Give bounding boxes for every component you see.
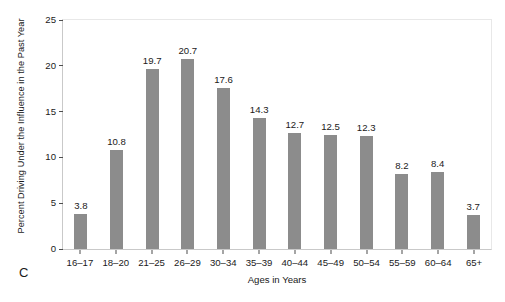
x-axis-tick: 18–20 — [98, 250, 134, 274]
y-tick-label: 10 — [45, 150, 56, 164]
x-axis-title: Ages in Years — [62, 273, 492, 286]
plot-area: 0510152025 3.810.819.720.717.614.312.712… — [62, 19, 492, 250]
bar-value-label: 10.8 — [107, 136, 126, 148]
x-tick-label: 18–20 — [102, 256, 129, 269]
bar-slot: 3.8 — [63, 20, 99, 249]
x-tick-label: 60–64 — [425, 256, 452, 269]
x-axis-tick: 55–59 — [384, 250, 420, 274]
x-axis-tick: 26–29 — [169, 250, 205, 274]
bar-value-label: 8.2 — [395, 160, 408, 172]
x-axis-tick: 60–64 — [420, 250, 456, 274]
x-tick-label: 65+ — [466, 256, 482, 269]
bar-value-label: 12.7 — [286, 119, 305, 131]
x-tick-mark — [474, 250, 475, 254]
bar-slot: 12.5 — [313, 20, 349, 249]
bar-slot: 12.3 — [348, 20, 384, 249]
bar-slot: 12.7 — [277, 20, 313, 249]
y-tick-label: 5 — [51, 196, 56, 210]
x-tick-mark — [330, 250, 331, 254]
bar-chart-figure: Percent Driving Under the Influence in t… — [0, 0, 505, 302]
bar-value-label: 3.7 — [467, 201, 480, 213]
bar-slot: 17.6 — [206, 20, 242, 249]
x-tick-label: 55–59 — [389, 256, 416, 269]
x-tick-label: 35–39 — [246, 256, 273, 269]
x-tick-mark — [366, 250, 367, 254]
bar-value-label: 19.7 — [143, 55, 162, 67]
bar-slot: 8.4 — [420, 20, 456, 249]
bar[interactable]: 12.3 — [360, 136, 373, 249]
x-tick-label: 45–49 — [317, 256, 344, 269]
y-axis-title: Percent Driving Under the Influence in t… — [14, 0, 28, 256]
bar[interactable]: 3.8 — [74, 214, 87, 249]
x-axis-tick: 21–25 — [134, 250, 170, 274]
x-tick-label: 26–29 — [174, 256, 201, 269]
bar[interactable]: 10.8 — [110, 150, 123, 249]
bar-value-label: 8.4 — [431, 158, 444, 170]
x-tick-mark — [223, 250, 224, 254]
x-axis-ticks: 16–1718–2021–2526–2930–3435–3940–4445–49… — [62, 250, 492, 274]
bar-slot: 10.8 — [99, 20, 135, 249]
bar-value-label: 12.5 — [321, 121, 340, 133]
bar-value-label: 3.8 — [74, 200, 87, 212]
y-tick-label: 15 — [45, 105, 56, 119]
x-tick-mark — [151, 250, 152, 254]
x-tick-mark — [187, 250, 188, 254]
x-tick-label: 21–25 — [138, 256, 165, 269]
bar-value-label: 14.3 — [250, 104, 269, 116]
x-tick-label: 16–17 — [67, 256, 94, 269]
x-tick-label: 50–54 — [353, 256, 380, 269]
bar[interactable]: 14.3 — [253, 118, 266, 249]
x-axis-tick: 35–39 — [241, 250, 277, 274]
x-tick-mark — [259, 250, 260, 254]
x-axis-tick: 16–17 — [62, 250, 98, 274]
panel-label: C — [19, 265, 28, 281]
y-tick-label: 0 — [51, 242, 56, 256]
bar[interactable]: 8.2 — [395, 174, 408, 249]
x-axis-tick: 50–54 — [349, 250, 385, 274]
x-tick-label: 30–34 — [210, 256, 237, 269]
x-tick-label: 40–44 — [282, 256, 309, 269]
x-tick-mark — [79, 250, 80, 254]
bar[interactable]: 19.7 — [146, 69, 159, 249]
x-axis-tick: 40–44 — [277, 250, 313, 274]
bar[interactable]: 20.7 — [181, 59, 194, 249]
bar-slot: 14.3 — [241, 20, 277, 249]
bar[interactable]: 17.6 — [217, 88, 230, 249]
bar-value-label: 12.3 — [357, 122, 376, 134]
bar-slot: 8.2 — [384, 20, 420, 249]
bar[interactable]: 12.7 — [288, 133, 301, 249]
x-tick-mark — [294, 250, 295, 254]
y-tick-label: 25 — [45, 13, 56, 27]
bar[interactable]: 12.5 — [324, 135, 337, 250]
bar-value-label: 20.7 — [179, 45, 198, 57]
y-tick-label: 20 — [45, 59, 56, 73]
bar[interactable]: 3.7 — [467, 215, 480, 249]
bar[interactable]: 8.4 — [431, 172, 444, 249]
x-axis-tick: 30–34 — [205, 250, 241, 274]
bar-slot: 3.7 — [455, 20, 491, 249]
x-axis-tick: 45–49 — [313, 250, 349, 274]
x-axis-tick: 65+ — [456, 250, 492, 274]
x-tick-mark — [115, 250, 116, 254]
bar-slot: 20.7 — [170, 20, 206, 249]
bar-series: 3.810.819.720.717.614.312.712.512.38.28.… — [63, 20, 491, 249]
bar-slot: 19.7 — [134, 20, 170, 249]
bar-value-label: 17.6 — [214, 74, 233, 86]
x-tick-mark — [438, 250, 439, 254]
x-tick-mark — [402, 250, 403, 254]
